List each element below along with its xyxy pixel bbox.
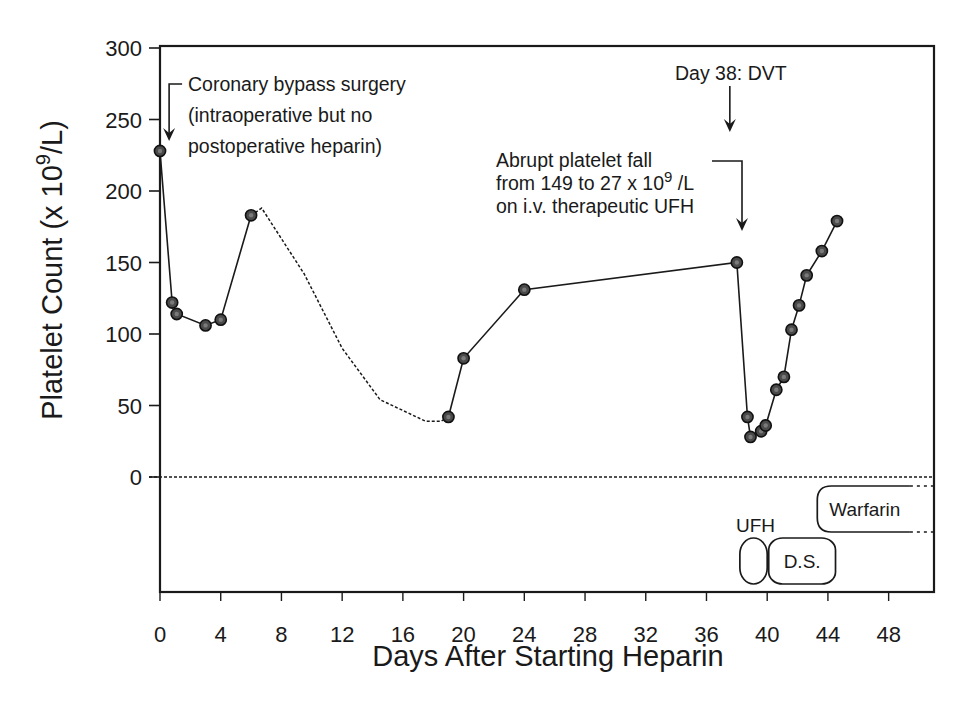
data-point-marker-center	[774, 388, 778, 392]
annotations: Coronary bypass surgery(intraoperative b…	[163, 62, 787, 231]
platelet-fall-annotation-line: from 149 to 27 x 109 /L	[496, 168, 694, 194]
therapy-warfarin: Warfarin	[817, 486, 934, 532]
x-tick-label: 8	[275, 622, 287, 647]
data-point-marker-center	[763, 423, 767, 427]
y-tick-label: 100	[105, 322, 142, 347]
data-point-marker-center	[170, 300, 174, 304]
data-point-marker-center	[203, 323, 207, 327]
platelet-fall-annotation-line: Abrupt platelet fall	[496, 149, 652, 171]
x-tick-label: 48	[876, 622, 900, 647]
y-axis: 050100150200250300	[105, 36, 160, 490]
platelet-fall-arrow	[712, 161, 742, 226]
data-point-marker-center	[735, 260, 739, 264]
data-point-marker-center	[249, 213, 253, 217]
dotted-trend-line	[251, 208, 448, 421]
surgery-annotation-line: (intraoperative but no	[188, 104, 372, 126]
platelet-fall-annotation-line: on i.v. therapeutic UFH	[496, 195, 694, 217]
y-axis-title-tail: /L)	[36, 120, 68, 154]
data-point-marker-center	[174, 312, 178, 316]
data-point-marker-center	[219, 318, 223, 322]
y-tick-label: 250	[105, 108, 142, 133]
x-tick-label: 40	[755, 622, 779, 647]
x-tick-label: 4	[215, 622, 227, 647]
y-tick-label: 0	[130, 465, 142, 490]
data-point-marker-center	[158, 149, 162, 153]
data-point-marker-center	[748, 435, 752, 439]
x-axis: 04812162024283236404448	[154, 592, 901, 647]
y-tick-label: 50	[118, 394, 142, 419]
y-axis-title-sup: 9	[32, 154, 54, 165]
therapy-label: D.S.	[784, 551, 821, 572]
data-point-marker-center	[745, 415, 749, 419]
surgery-annotation-line: postoperative heparin)	[188, 135, 382, 157]
x-tick-label: 12	[330, 622, 354, 647]
data-point-marker-center	[446, 415, 450, 419]
x-axis-title: Days After Starting Heparin	[372, 640, 723, 672]
x-tick-label: 0	[154, 622, 166, 647]
data-point-marker-center	[782, 375, 786, 379]
y-axis-title: Platelet Count (x 109/L)	[32, 120, 68, 420]
estimated-platelet-curve	[251, 208, 448, 421]
therapy-label: Warfarin	[829, 499, 900, 520]
therapy-bar	[740, 538, 767, 584]
therapy-timeline: UFHD.S.Warfarin	[736, 486, 934, 584]
surgery-annotation-line: Coronary bypass surgery	[188, 73, 406, 95]
surgery-arrow	[169, 84, 182, 138]
solid-line-segment	[448, 221, 837, 437]
y-axis-title-main: Platelet Count (x 10	[36, 165, 68, 420]
y-tick-label: 150	[105, 251, 142, 276]
y-tick-label: 200	[105, 179, 142, 204]
y-tick-label: 300	[105, 36, 142, 61]
data-point-marker-center	[835, 219, 839, 223]
data-point-marker-center	[804, 273, 808, 277]
data-point-marker-center	[820, 249, 824, 253]
data-point-marker-center	[461, 356, 465, 360]
x-tick-label: 44	[816, 622, 840, 647]
data-point-marker-center	[789, 328, 793, 332]
therapy-ds: D.S.	[769, 538, 836, 584]
platelet-count-chart: 050100150200250300 048121620242832364044…	[0, 0, 968, 725]
data-point-marker-center	[522, 287, 526, 291]
dvt-annotation: Day 38: DVT	[675, 62, 787, 84]
superscript: 9	[664, 168, 672, 185]
unit-suffix: /L	[672, 172, 694, 194]
therapy-label: UFH	[736, 515, 775, 536]
data-point-marker-center	[797, 303, 801, 307]
